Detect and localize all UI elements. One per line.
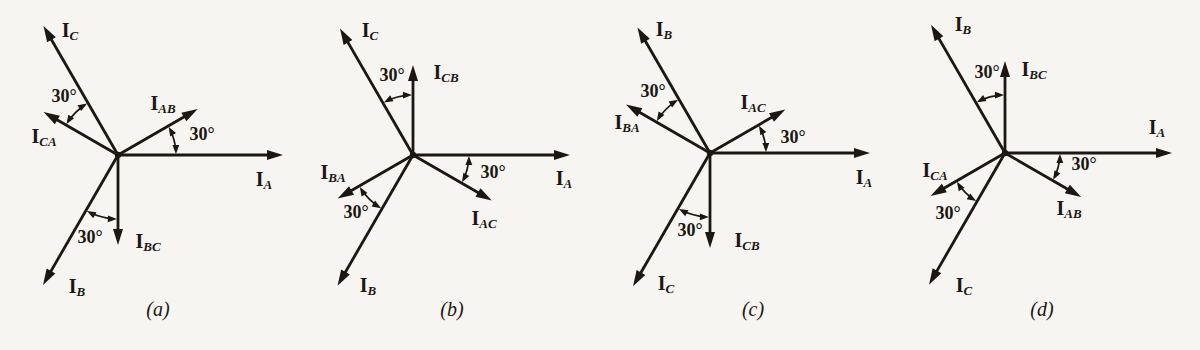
arrowhead-IAC [769,110,785,122]
panel-caption-b: (b) [402,298,502,321]
vector-label-IC: IC [658,272,675,296]
arrowhead-IBA [626,105,642,117]
arrowhead-IA [854,148,870,158]
panel-caption-c: (c) [703,298,803,321]
angle-label: 30° [780,127,805,147]
angle-label: 30° [935,203,960,223]
angle-label: 30° [51,86,76,106]
arrowhead-IA [267,150,283,160]
arrowhead-ICB [408,65,418,81]
arrowhead-IAB [181,109,197,121]
angle-arc-arrowhead [384,95,394,102]
angle-label: 30° [640,81,665,101]
vector-IB [48,155,119,277]
angle-label: 30° [677,220,702,240]
vector-IAC [413,155,484,196]
vector-label-ICA: ICA [31,125,56,149]
angle-label: 30° [77,227,102,247]
vector-label-IBA: IBA [320,161,345,185]
phasor-figure: IAICIBIABICAIBC30°30°30° (a) IAICIBICBIB… [0,0,1200,350]
angle-arc-arrowhead [679,209,689,216]
vector-label-IAB: IAB [150,92,175,116]
angle-arc-arrowhead [977,95,987,102]
arrowhead-IA [554,150,570,160]
angle-label: 30° [1071,154,1096,174]
angle-arc-arrowhead [403,92,412,99]
angle-arc-arrowhead [995,92,1004,99]
vector-label-IBC: IBC [135,230,160,254]
arrowhead-IB [931,25,943,41]
vector-label-IAC: IAC [471,207,496,231]
arrowhead-IC [44,26,56,42]
arrowhead-IB [338,269,350,285]
panel-d: IAIBICIBCICAIAB30°30°30° (d) [900,0,1200,350]
panel-caption-a: (a) [108,298,208,321]
angle-label: 30° [189,124,214,144]
vector-label-IB: IB [69,275,86,299]
panel-b: IAICIBICBIBAIAC30°30°30° (b) [300,0,600,350]
vector-label-IB: IB [955,13,972,37]
vector-label-ICB: ICB [734,229,759,253]
vector-label-IB: IB [360,274,377,298]
arrowhead-ICA [44,112,60,124]
vector-label-IBC: IBC [1021,58,1046,82]
angle-arc-arrowhead [1053,170,1060,180]
arrowhead-IA [1156,148,1172,158]
arrowhead-IBC [113,229,123,245]
panel-c: IAIBICIACIBAICB30°30°30° (c) [600,0,900,350]
arrowhead-IB [638,27,650,43]
angle-arc-arrowhead [108,215,117,222]
vector-label-IC: IC [62,19,79,43]
angle-label: 30° [480,162,505,182]
angle-label: 30° [343,202,368,222]
arrowhead-IAB [1065,185,1081,197]
vector-label-IAB: IAB [1056,197,1081,221]
angle-arc-arrowhead [462,173,469,183]
arrowhead-ICB [705,232,715,248]
angle-label: 30° [379,65,404,85]
angle-arc-arrowhead [169,127,176,137]
angle-arc-arrowhead [87,211,97,218]
vector-label-IA: IA [856,166,873,190]
arrowhead-ICA [931,184,947,196]
vector-label-IA: IA [556,167,573,191]
vector-IAB [118,114,190,156]
vector-label-ICB: ICB [433,61,458,85]
vector-label-IAC: IAC [740,91,765,115]
vector-label-IA: IA [256,168,273,192]
arrowhead-IAC [475,188,491,200]
vector-label-IC: IC [362,19,379,43]
vector-label-IB: IB [656,18,673,42]
angle-arc-arrowhead [759,126,766,136]
angle-label: 30° [974,62,999,82]
arrowhead-IC [633,270,645,286]
vector-IAB [1005,153,1073,193]
angle-arc-arrowhead [465,156,472,165]
arrowhead-IBA [338,186,354,198]
arrowhead-IC [340,29,352,45]
vector-label-IC: IC [956,274,973,298]
vector-label-IA: IA [1149,116,1166,140]
angle-arc-arrowhead [172,145,179,154]
vector-IB [936,33,1006,153]
angle-arc-arrowhead [1056,154,1063,163]
vector-label-ICA: ICA [922,159,947,183]
angle-arc-arrowhead [762,143,769,152]
arrowhead-IB [43,269,55,285]
panel-caption-d: (d) [992,298,1092,321]
panel-a: IAICIBIABICAIBC30°30°30° (a) [0,0,300,350]
arrowhead-IC [929,268,941,284]
arrowhead-IBC [1000,61,1010,77]
